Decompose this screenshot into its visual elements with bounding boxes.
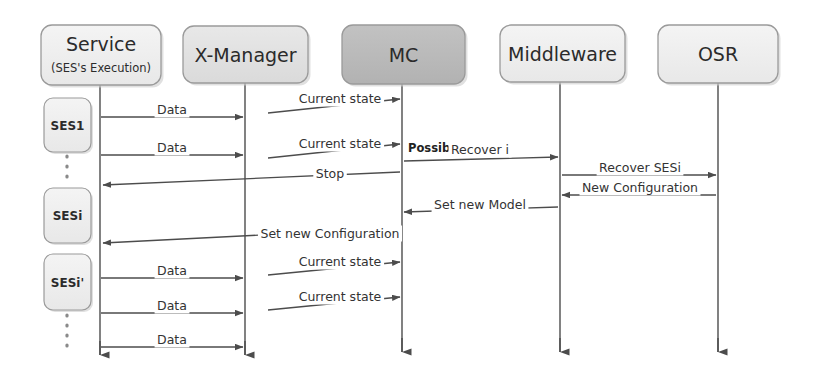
message-m13[interactable]: Current state — [268, 254, 400, 276]
lifeline-header-osr[interactable]: OSR — [658, 25, 781, 86]
message-m3[interactable]: Data — [101, 140, 243, 156]
message-label: Data — [157, 298, 187, 313]
message-m10[interactable]: Set new Model — [404, 197, 558, 213]
lifeline-title-mc: MC — [389, 44, 419, 66]
execution-block-label: SES1 — [51, 119, 85, 133]
message-label: Stop — [316, 166, 344, 181]
execution-block-sesip[interactable]: SESi' — [44, 254, 93, 312]
message-label: Current state — [299, 136, 382, 151]
lifeline-header-service[interactable]: Service(SES's Execution) — [41, 25, 164, 88]
message-label: Recover SESi — [599, 160, 681, 175]
message-label: Current state — [299, 91, 382, 106]
message-m9[interactable]: New Configuration — [562, 180, 716, 196]
message-m15[interactable]: Current state — [268, 289, 400, 311]
sequence-diagram-canvas: Service(SES's Execution)X-ManagerMCMiddl… — [0, 0, 818, 384]
lifeline-title-middleware: Middleware — [508, 43, 617, 65]
message-label: Current state — [299, 254, 382, 269]
message-m2[interactable]: Current state — [268, 91, 400, 114]
message-m7[interactable]: Recover SESi — [562, 160, 716, 176]
message-m4[interactable]: Current state — [268, 136, 400, 159]
lifeline-title-service: Service — [66, 33, 136, 55]
execution-block-sesi[interactable]: SESi — [44, 188, 93, 245]
message-arrow — [404, 157, 558, 161]
lifeline-header-xmanager[interactable]: X-Manager — [183, 26, 311, 86]
message-m11[interactable]: Set new Configuration — [103, 226, 402, 244]
lifeline-subtitle-service: (SES's Execution) — [51, 61, 151, 75]
message-m8[interactable]: Stop — [103, 166, 400, 186]
message-m1[interactable]: Data — [101, 102, 243, 118]
message-label: New Configuration — [582, 180, 698, 195]
execution-block-ses1[interactable]: SES1 — [44, 98, 93, 154]
message-m16[interactable]: Data — [101, 332, 243, 348]
execution-block-label: SESi' — [51, 276, 84, 290]
message-m14[interactable]: Data — [101, 298, 243, 314]
message-label: Current state — [299, 289, 382, 304]
lifeline-title-osr: OSR — [698, 43, 738, 65]
lifeline-stems — [100, 82, 718, 355]
sequence-diagram-svg: Service(SES's Execution)X-ManagerMCMiddl… — [0, 0, 818, 384]
message-arrow — [103, 172, 400, 185]
message-label: Set new Model — [434, 197, 526, 212]
message-m12[interactable]: Data — [101, 263, 243, 279]
message-label: Data — [157, 332, 187, 347]
lifeline-header-mc[interactable]: MC — [342, 25, 468, 87]
message-label: Data — [157, 102, 187, 117]
message-label: Set new Configuration — [260, 226, 399, 241]
lifeline-header-boxes: Service(SES's Execution)X-ManagerMCMiddl… — [41, 25, 781, 88]
messages: DataCurrent stateDataCurrent statePossib… — [101, 91, 716, 348]
execution-block-label: SESi — [53, 209, 83, 223]
message-label: Recover i — [451, 142, 509, 157]
lifeline-title-xmanager: X-Manager — [194, 44, 296, 66]
execution-blocks: SES1SESiSESi' — [44, 98, 93, 312]
lifeline-header-middleware[interactable]: Middleware — [500, 25, 628, 85]
message-label: Data — [157, 140, 187, 155]
message-label: Data — [157, 263, 187, 278]
